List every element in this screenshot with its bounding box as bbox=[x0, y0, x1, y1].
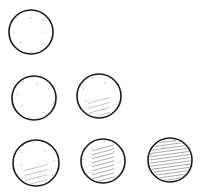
circle-outline bbox=[81, 139, 125, 183]
texture-dots bbox=[21, 142, 55, 178]
texture-dots bbox=[13, 17, 46, 52]
hatch-shading bbox=[25, 165, 48, 186]
circles-layer bbox=[9, 10, 192, 186]
circle-outline bbox=[9, 10, 53, 54]
texture-dots bbox=[83, 77, 118, 115]
circle-outline bbox=[12, 76, 56, 120]
circle-r3-c1 bbox=[13, 140, 59, 186]
circle-outline bbox=[77, 74, 121, 118]
circle-diagram bbox=[0, 0, 204, 196]
circle-r3-c2 bbox=[81, 139, 125, 183]
hatch-shading bbox=[88, 97, 110, 118]
circle-outline bbox=[13, 140, 59, 186]
hatch-shading bbox=[92, 145, 114, 183]
circle-r2-c2 bbox=[77, 74, 121, 118]
circle-r1-c1 bbox=[9, 10, 53, 54]
texture-dots bbox=[17, 81, 54, 118]
texture-dots bbox=[83, 141, 121, 177]
circle-r2-c1 bbox=[12, 76, 56, 120]
circle-r3-c3 bbox=[148, 135, 192, 183]
